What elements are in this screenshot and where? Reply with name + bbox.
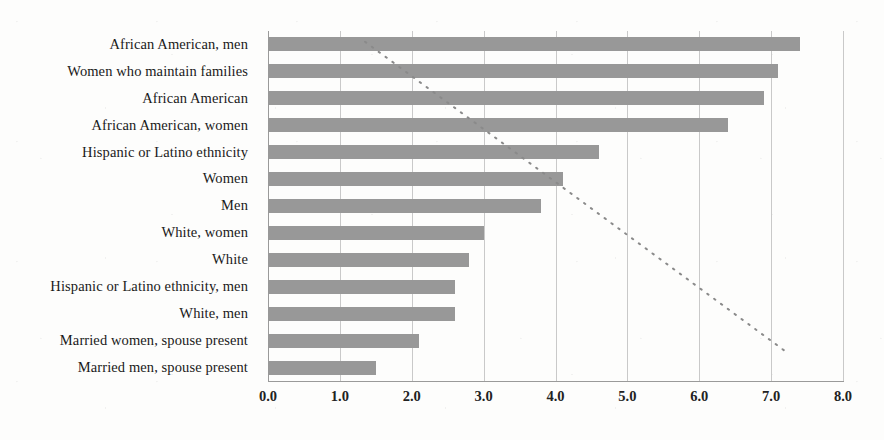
bar-row <box>268 31 843 58</box>
bar <box>268 91 764 105</box>
bar <box>268 280 455 294</box>
bar-row <box>268 354 843 381</box>
category-label: African American <box>142 91 248 106</box>
category-label-row: Hispanic or Latino ethnicity, men <box>0 273 258 300</box>
category-axis-labels: African American, menWomen who maintain … <box>0 31 258 381</box>
x-tick-label: 5.0 <box>618 388 636 405</box>
x-tick-label: 1.0 <box>331 388 349 405</box>
bar-row <box>268 193 843 220</box>
bar <box>268 307 455 321</box>
category-label-row: African American <box>0 85 258 112</box>
bar-row <box>268 246 843 273</box>
category-label-row: White, women <box>0 219 258 246</box>
bar <box>268 172 563 186</box>
category-label-row: White <box>0 246 258 273</box>
category-label: Married men, spouse present <box>78 360 248 375</box>
bar-row <box>268 300 843 327</box>
category-label: Women who maintain families <box>67 64 248 79</box>
x-tick-label: 3.0 <box>475 388 493 405</box>
bar-chart: African American, menWomen who maintain … <box>0 0 884 440</box>
x-axis-tick-labels: 0.01.02.03.04.05.06.07.08.0 <box>268 388 843 412</box>
category-label-row: White, men <box>0 300 258 327</box>
category-label-row: Hispanic or Latino ethnicity <box>0 139 258 166</box>
category-label-row: Women <box>0 166 258 193</box>
bar <box>268 334 419 348</box>
category-label-row: African American, men <box>0 31 258 58</box>
category-label: Hispanic or Latino ethnicity <box>82 145 248 160</box>
bar-row <box>268 327 843 354</box>
category-label: White, men <box>179 306 248 321</box>
category-label: Women <box>203 171 248 186</box>
x-tick-label: 7.0 <box>762 388 780 405</box>
category-label: Hispanic or Latino ethnicity, men <box>50 279 248 294</box>
x-tick-label: 2.0 <box>403 388 421 405</box>
category-label: White <box>212 252 248 267</box>
category-label-row: African American, women <box>0 112 258 139</box>
category-label: African American, women <box>91 118 248 133</box>
x-axis-line <box>268 381 844 382</box>
gridline <box>843 31 844 381</box>
bar <box>268 361 376 375</box>
bar-row <box>268 273 843 300</box>
x-tick-label: 0.0 <box>259 388 277 405</box>
category-label-row: Married women, spouse present <box>0 327 258 354</box>
bar-row <box>268 85 843 112</box>
bar-row <box>268 219 843 246</box>
bar-row <box>268 139 843 166</box>
category-label-row: Married men, spouse present <box>0 354 258 381</box>
bar <box>268 145 599 159</box>
bar-row <box>268 58 843 85</box>
bar-row <box>268 166 843 193</box>
category-label: Married women, spouse present <box>60 333 248 348</box>
bar <box>268 118 728 132</box>
category-label: White, women <box>161 225 248 240</box>
plot-area <box>268 31 843 381</box>
category-label: Men <box>221 198 248 213</box>
bar <box>268 226 484 240</box>
bar <box>268 199 541 213</box>
bar-series <box>268 31 843 381</box>
category-label-row: Women who maintain families <box>0 58 258 85</box>
category-label-row: Men <box>0 193 258 220</box>
x-tick-label: 6.0 <box>690 388 708 405</box>
bar <box>268 64 778 78</box>
bar <box>268 37 800 51</box>
x-tick-label: 4.0 <box>546 388 564 405</box>
x-tick-label: 8.0 <box>834 388 852 405</box>
bar <box>268 253 469 267</box>
bar-row <box>268 112 843 139</box>
category-label: African American, men <box>109 37 248 52</box>
